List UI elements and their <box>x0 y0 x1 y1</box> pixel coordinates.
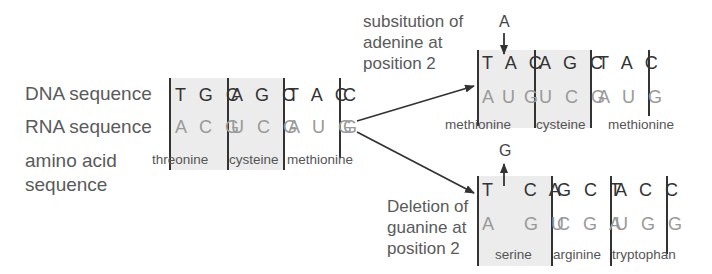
arrow-to-substitution-icon <box>357 86 474 121</box>
arrow-to-deletion-icon <box>357 132 474 193</box>
arrows-layer <box>0 0 712 274</box>
